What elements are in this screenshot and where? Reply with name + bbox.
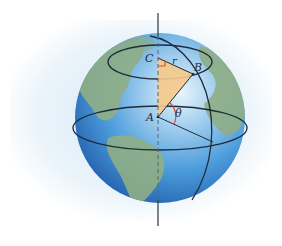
- label-theta: θ: [175, 107, 182, 120]
- label-b: B: [193, 61, 202, 74]
- label-a: A: [145, 111, 154, 124]
- globe-diagram: C r B A θ: [0, 0, 282, 246]
- label-c: C: [145, 52, 154, 65]
- point-a-marker: [157, 116, 160, 119]
